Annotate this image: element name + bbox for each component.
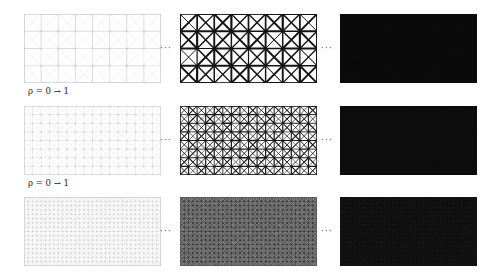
lattice-density-figure: ··················ρ = 0 → 1ρ = 0 → 1 xyxy=(0,0,488,273)
ellipsis-separator-1-2: ··· xyxy=(318,44,336,54)
panel-row2-right xyxy=(340,106,477,175)
panel-row1-right-slot xyxy=(340,14,477,83)
panel-row3-middle-slot xyxy=(180,197,317,266)
panel-row1-left xyxy=(24,14,161,83)
panel-row3-middle xyxy=(180,197,317,266)
ellipsis-separator-2-2: ··· xyxy=(318,136,336,146)
ellipsis-separator-3-2: ··· xyxy=(318,227,336,237)
panel-row1-middle-slot xyxy=(180,14,317,83)
panel-row3-right xyxy=(340,197,477,266)
panel-row2-left xyxy=(24,106,161,175)
panel-row3-right-slot xyxy=(340,197,477,266)
ellipsis-separator-1-1: ··· xyxy=(157,44,175,54)
panel-row1-middle xyxy=(180,14,317,83)
ellipsis-separator-3-1: ··· xyxy=(157,227,175,237)
panel-row3-left xyxy=(24,197,161,266)
panel-row2-right-slot xyxy=(340,106,477,175)
panel-row1-right xyxy=(340,14,477,83)
panel-row2-left-slot xyxy=(24,106,161,175)
density-range-label-row1: ρ = 0 → 1 xyxy=(28,86,69,96)
panel-row2-middle-slot xyxy=(180,106,317,175)
panel-row1-left-slot xyxy=(24,14,161,83)
density-range-label-row2: ρ = 0 → 1 xyxy=(28,178,69,188)
ellipsis-separator-2-1: ··· xyxy=(157,136,175,146)
panel-row3-left-slot xyxy=(24,197,161,266)
panel-row2-middle xyxy=(180,106,317,175)
